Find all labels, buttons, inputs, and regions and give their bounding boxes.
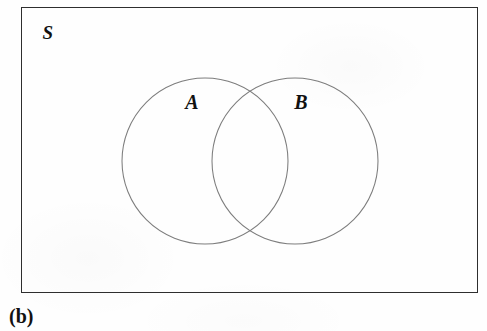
venn-diagram-figure: S A B (b) (0, 0, 487, 331)
set-a-label: A (185, 92, 199, 112)
figure-caption: (b) (9, 305, 33, 327)
set-b-label: B (294, 92, 308, 112)
universal-set-label: S (43, 23, 54, 42)
universal-set-rectangle (21, 7, 478, 293)
